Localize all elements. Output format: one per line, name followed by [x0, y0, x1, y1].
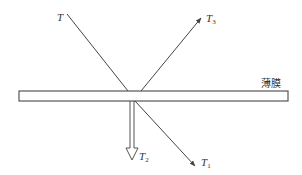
- film-rect: [19, 91, 288, 101]
- force-diagram-canvas: [0, 0, 302, 175]
- force-T2-arrow: [126, 101, 138, 160]
- label-T2: T2: [139, 151, 149, 164]
- label-T3: T3: [206, 13, 216, 26]
- label-film: 薄膜: [261, 79, 281, 89]
- label-T: T: [57, 12, 63, 25]
- force-T3-arrow: [141, 18, 201, 91]
- label-T1: T1: [201, 157, 211, 170]
- force-T-line: [67, 14, 128, 91]
